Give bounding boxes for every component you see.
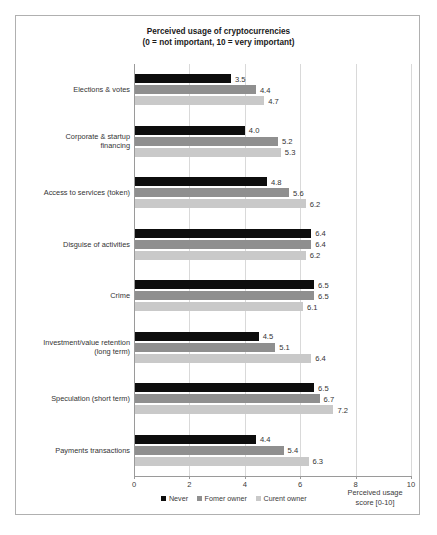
- bar-value-label: 6.2: [310, 199, 321, 208]
- bar-value-label: 5.3: [285, 148, 296, 157]
- bar[interactable]: [134, 435, 256, 444]
- bar-row: 4.5: [134, 332, 411, 341]
- bar[interactable]: [134, 354, 311, 363]
- bar-value-label: 4.4: [260, 85, 271, 94]
- bar-row: 7.2: [134, 405, 411, 414]
- bar-row: 6.2: [134, 199, 411, 208]
- bar-row: 4.8: [134, 177, 411, 186]
- category-label: Corporate & startupfinancing: [18, 132, 130, 150]
- legend-item[interactable]: Never: [161, 494, 188, 503]
- bar-value-label: 5.4: [288, 446, 299, 455]
- bar[interactable]: [134, 229, 311, 238]
- bar[interactable]: [134, 148, 281, 157]
- bar-group: 4.05.25.3: [134, 126, 411, 157]
- bar-value-label: 7.2: [337, 405, 348, 414]
- bar[interactable]: [134, 291, 314, 300]
- category-label-line: Investment/value retention: [18, 338, 130, 347]
- bar[interactable]: [134, 332, 259, 341]
- category-label-line: Access to services (token): [18, 188, 130, 197]
- bar[interactable]: [134, 199, 306, 208]
- bar-value-label: 3.5: [235, 74, 246, 83]
- category-label: Speculation (short term): [18, 394, 130, 403]
- legend-item[interactable]: Curent owner: [256, 494, 307, 503]
- bar[interactable]: [134, 96, 264, 105]
- x-axis-tick: [356, 476, 357, 479]
- legend-swatch-icon: [256, 496, 261, 501]
- x-axis-tick: [300, 476, 301, 479]
- bar-row: 6.4: [134, 240, 411, 249]
- bar[interactable]: [134, 251, 306, 260]
- bar[interactable]: [134, 74, 231, 83]
- x-axis-tick: [134, 476, 135, 479]
- bar-row: 4.4: [134, 85, 411, 94]
- bar-row: 3.5: [134, 74, 411, 83]
- category-label-line: Speculation (short term): [18, 394, 130, 403]
- bar[interactable]: [134, 405, 333, 414]
- chart-frame: Perceived usage of cryptocurrencies (0 =…: [15, 15, 420, 515]
- category-label: Disguise of activities: [18, 240, 130, 249]
- bar[interactable]: [134, 85, 256, 94]
- bar-value-label: 6.5: [318, 383, 329, 392]
- legend-item[interactable]: Fomer owner: [197, 494, 247, 503]
- bar-row: 6.5: [134, 280, 411, 289]
- bar-row: 4.0: [134, 126, 411, 135]
- bar-value-label: 6.5: [318, 280, 329, 289]
- legend-label: Curent owner: [263, 494, 306, 503]
- bar[interactable]: [134, 240, 311, 249]
- bar-value-label: 4.0: [249, 126, 260, 135]
- bar-row: 6.7: [134, 394, 411, 403]
- gridline: [411, 64, 412, 476]
- bar[interactable]: [134, 457, 309, 466]
- bar-value-label: 4.4: [260, 435, 271, 444]
- bar-value-label: 6.2: [310, 251, 321, 260]
- x-axis-line: [134, 476, 412, 477]
- bar[interactable]: [134, 302, 303, 311]
- bar-row: 6.2: [134, 251, 411, 260]
- bar-value-label: 4.7: [268, 96, 279, 105]
- x-axis-title: Perceived usage score [0-10]: [334, 488, 416, 508]
- category-label-line: Elections & votes: [18, 85, 130, 94]
- bar-row: 4.7: [134, 96, 411, 105]
- bar-row: 6.3: [134, 457, 411, 466]
- bar[interactable]: [134, 177, 267, 186]
- bar-value-label: 6.4: [315, 354, 326, 363]
- category-label-line: (long term): [18, 347, 130, 356]
- legend-swatch-icon: [197, 496, 202, 501]
- bar[interactable]: [134, 394, 320, 403]
- category-label: Access to services (token): [18, 188, 130, 197]
- category-label: Investment/value retention(long term): [18, 338, 130, 356]
- bar[interactable]: [134, 137, 278, 146]
- x-axis-tick-label: 2: [187, 480, 191, 489]
- bar[interactable]: [134, 280, 314, 289]
- category-axis-labels: Elections & votesCorporate & startupfina…: [16, 64, 130, 476]
- legend-label: Fomer owner: [205, 494, 247, 503]
- bar-row: 5.3: [134, 148, 411, 157]
- bar-value-label: 4.8: [271, 177, 282, 186]
- bar[interactable]: [134, 383, 314, 392]
- bar-group: 4.55.16.4: [134, 332, 411, 363]
- bar-value-label: 6.7: [324, 394, 335, 403]
- bar-group: 4.45.46.3: [134, 435, 411, 466]
- x-axis-tick-label: 6: [298, 480, 302, 489]
- chart-title-line-1: Perceived usage of cryptocurrencies: [16, 26, 421, 37]
- legend-swatch-icon: [161, 496, 166, 501]
- bar-group: 6.56.77.2: [134, 383, 411, 414]
- category-label-line: Payments transactions: [18, 446, 130, 455]
- category-label-line: Crime: [18, 291, 130, 300]
- bar-row: 4.4: [134, 435, 411, 444]
- bar[interactable]: [134, 343, 275, 352]
- bar[interactable]: [134, 446, 284, 455]
- bar-value-label: 6.4: [315, 229, 326, 238]
- x-axis-tick: [245, 476, 246, 479]
- category-label: Payments transactions: [18, 446, 130, 455]
- bar[interactable]: [134, 188, 289, 197]
- bar-group: 6.46.46.2: [134, 229, 411, 260]
- bar-row: 6.4: [134, 229, 411, 238]
- chart-legend: NeverFomer ownerCurent owner: [134, 494, 334, 503]
- bar[interactable]: [134, 126, 245, 135]
- category-label: Crime: [18, 291, 130, 300]
- y-axis-line: [134, 64, 135, 476]
- category-label-line: Disguise of activities: [18, 240, 130, 249]
- bar-value-label: 6.1: [307, 302, 318, 311]
- bar-row: 5.6: [134, 188, 411, 197]
